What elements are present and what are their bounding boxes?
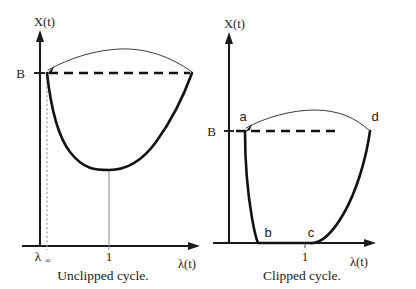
y-axis-label-unclipped: X(t) bbox=[34, 15, 55, 29]
x-tick-label-one-unclipped: 1 bbox=[106, 249, 113, 264]
point-label-b: b bbox=[264, 225, 271, 240]
y-axis-arrowhead-clipped bbox=[225, 32, 233, 44]
panel-clipped: X(t) λ(t) B a b c d 1 Clipped cycle. bbox=[207, 17, 378, 283]
upper-branch-thin-clipped bbox=[246, 110, 370, 131]
upper-branch-thin-unclipped bbox=[48, 49, 192, 72]
y-tick-label-B-unclipped: B bbox=[16, 66, 25, 81]
x-axis-arrowhead-clipped bbox=[364, 239, 376, 247]
point-label-d: d bbox=[371, 109, 378, 124]
lower-branch-bold-unclipped bbox=[47, 73, 192, 170]
panel-unclipped: X(t) λ(t) B λ ∞ 1 Unclipped cycle. bbox=[16, 15, 200, 283]
caption-clipped: Clipped cycle. bbox=[263, 268, 341, 283]
x-tick-label-one-clipped: 1 bbox=[302, 249, 309, 264]
x-tick-label-lambda-infinity-subscript: ∞ bbox=[45, 256, 51, 265]
x-tick-label-lambda-infinity: λ bbox=[35, 249, 42, 264]
y-axis-label-clipped: X(t) bbox=[224, 17, 245, 31]
y-tick-label-B-clipped: B bbox=[207, 124, 216, 139]
figure-root: X(t) λ(t) B λ ∞ 1 Unclipped cycle. bbox=[0, 0, 416, 289]
x-axis-label-clipped: λ(t) bbox=[350, 255, 368, 269]
y-axis-arrowhead-unclipped bbox=[36, 30, 44, 42]
x-axis-arrowhead-unclipped bbox=[188, 242, 200, 250]
figure-svg: X(t) λ(t) B λ ∞ 1 Unclipped cycle. bbox=[0, 0, 416, 289]
point-label-c: c bbox=[308, 225, 315, 240]
caption-unclipped: Unclipped cycle. bbox=[57, 268, 148, 283]
x-axis-label-unclipped: λ(t) bbox=[178, 257, 196, 271]
point-label-a: a bbox=[239, 109, 247, 124]
